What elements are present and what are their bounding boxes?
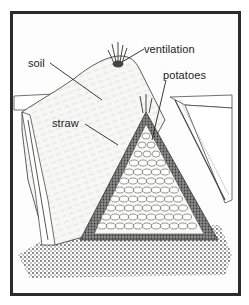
label-soil: soil	[28, 58, 45, 69]
label-potatoes: potatoes	[163, 70, 206, 81]
label-ventilation: ventilation	[144, 44, 195, 55]
label-straw: straw	[52, 118, 79, 129]
potato-clamp-illustration	[0, 0, 249, 305]
